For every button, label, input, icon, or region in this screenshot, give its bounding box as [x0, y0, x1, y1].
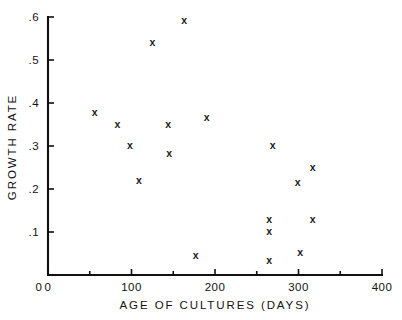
data-point-marker: x — [92, 106, 98, 118]
data-point-marker: x — [310, 213, 316, 225]
data-point-marker: x — [270, 139, 276, 151]
y-tick-label: .4 — [29, 97, 40, 109]
y-tick-label: .3 — [29, 140, 39, 152]
x-tick-label: 200 — [205, 281, 225, 293]
data-point-marker: x — [193, 249, 199, 261]
axes-group — [48, 17, 382, 275]
data-point-marker: x — [165, 118, 171, 130]
y-tick-label: .1 — [29, 226, 39, 238]
data-point-marker: x — [114, 118, 120, 130]
data-point-marker: x — [181, 14, 187, 26]
data-point-marker: x — [266, 225, 272, 237]
data-point-marker: x — [266, 254, 272, 266]
y-axis-tick-labels: .1.2.3.4.5.60 — [29, 11, 43, 293]
data-point-markers: xxxxxxxxxxxxxxxxxx — [92, 14, 316, 266]
y-axis-title: GROWTH RATE — [6, 94, 18, 200]
data-point-marker: x — [310, 161, 316, 173]
plot-canvas: 0100200300400 .1.2.3.4.5.60 xxxxxxxxxxxx… — [0, 0, 402, 320]
y-tick-label: .6 — [29, 11, 39, 23]
axis-spines — [48, 17, 382, 275]
x-tick-label: 300 — [288, 281, 308, 293]
data-point-marker: x — [204, 111, 210, 123]
x-axis-tick-labels: 0100200300400 — [45, 281, 393, 293]
x-tick-label: 400 — [372, 281, 392, 293]
x-tick-label: 0 — [45, 281, 52, 293]
data-point-marker: x — [266, 213, 272, 225]
data-point-marker: x — [127, 139, 133, 151]
x-tick-label: 100 — [121, 281, 141, 293]
y-tick-label: .5 — [29, 54, 39, 66]
data-point-marker: x — [295, 176, 301, 188]
data-point-marker: x — [149, 36, 155, 48]
y-tick-label: .2 — [29, 183, 39, 195]
y-origin-label: 0 — [36, 281, 43, 293]
data-point-marker: x — [166, 147, 172, 159]
scatter-plot-figure: 0100200300400 .1.2.3.4.5.60 xxxxxxxxxxxx… — [0, 0, 402, 320]
x-axis-title: AGE OF CULTURES (DAYS) — [120, 299, 311, 311]
data-point-marker: x — [297, 246, 303, 258]
data-point-marker: x — [136, 174, 142, 186]
